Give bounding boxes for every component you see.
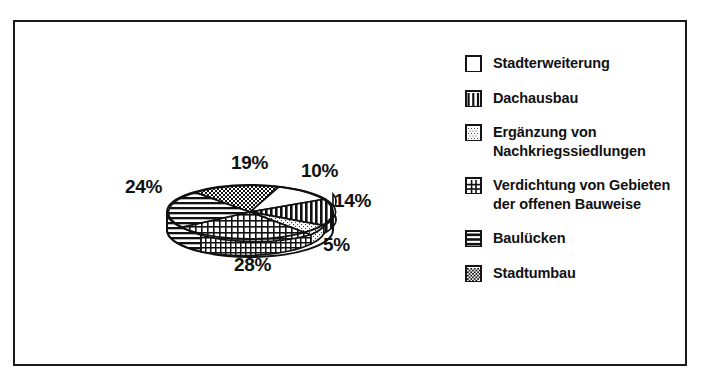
legend-swatch-stadterweiterung xyxy=(465,55,482,72)
legend-label-line1: Stadtumbau xyxy=(493,265,576,281)
chart-frame: 19% 10% 24% 14% 5% 28% Stadterweiterung xyxy=(13,20,687,366)
legend-item-ergaenzung[interactable]: Ergänzung von Nachkriegssiedlungen xyxy=(465,123,685,160)
legend-item-verdichtung[interactable]: Verdichtung von Gebieten der offenen Bau… xyxy=(465,176,685,213)
pie-chart: 19% 10% 24% 14% 5% 28% xyxy=(15,22,435,368)
pie-chart-svg xyxy=(15,22,435,368)
legend-label-ergaenzung: Ergänzung von Nachkriegssiedlungen xyxy=(493,123,646,160)
legend-swatch-verdichtung xyxy=(465,177,482,194)
legend-label-bauluecken: Baulücken xyxy=(493,229,565,248)
pie-label-14: 14% xyxy=(334,191,371,210)
legend-label-line1: Baulücken xyxy=(493,230,565,246)
pie-label-5: 5% xyxy=(323,235,350,254)
legend-label-line2: Nachkriegssiedlungen xyxy=(493,142,646,161)
legend-item-bauluecken[interactable]: Baulücken xyxy=(465,229,685,248)
pie-label-24: 24% xyxy=(125,177,162,196)
chart-legend: Stadterweiterung Dachausbau xyxy=(465,54,685,298)
legend-label-line1: Dachausbau xyxy=(493,90,578,106)
legend-label-line2: der offenen Bauweise xyxy=(493,195,670,214)
pie-label-19: 19% xyxy=(231,153,268,172)
legend-swatch-dachausbau xyxy=(465,90,482,107)
legend-label-line1: Stadterweiterung xyxy=(493,55,610,71)
legend-label-stadterweiterung: Stadterweiterung xyxy=(493,54,610,73)
legend-item-stadtumbau[interactable]: Stadtumbau xyxy=(465,264,685,283)
legend-label-stadtumbau: Stadtumbau xyxy=(493,264,576,283)
pie-label-10: 10% xyxy=(301,161,338,180)
legend-swatch-stadtumbau xyxy=(465,265,482,282)
legend-label-dachausbau: Dachausbau xyxy=(493,89,578,108)
legend-label-line1: Verdichtung von Gebieten xyxy=(493,177,670,193)
legend-label-verdichtung: Verdichtung von Gebieten der offenen Bau… xyxy=(493,176,670,213)
legend-swatch-ergaenzung xyxy=(465,124,482,141)
pie-label-28: 28% xyxy=(234,255,271,274)
legend-item-dachausbau[interactable]: Dachausbau xyxy=(465,89,685,108)
legend-label-line1: Ergänzung von xyxy=(493,124,596,140)
legend-item-stadterweiterung[interactable]: Stadterweiterung xyxy=(465,54,685,73)
legend-swatch-bauluecken xyxy=(465,230,482,247)
